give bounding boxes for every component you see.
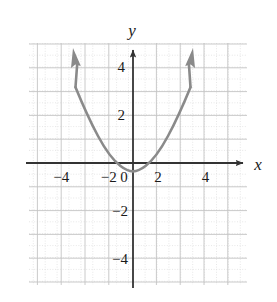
x-tick-label-4: 4 (202, 169, 210, 185)
y-tick-label-2: 2 (118, 107, 126, 123)
y-tick-label-4: 4 (118, 59, 126, 75)
parabola-graph-figure: −4 −2 0 2 4 4 2 −2 −4 x y (0, 0, 277, 302)
x-axis-label: x (253, 155, 262, 174)
y-tick-label--2: −2 (112, 203, 128, 219)
y-tick-label--4: −4 (112, 251, 128, 267)
curve-left-tail (76, 63, 78, 88)
x-tick-label--4: −4 (53, 169, 69, 185)
x-tick-label-0: 0 (120, 169, 128, 185)
curve-right-tail (189, 63, 191, 88)
graph-canvas: −4 −2 0 2 4 4 2 −2 −4 x y (0, 0, 277, 302)
x-tick-label-2: 2 (154, 169, 162, 185)
y-axis-label: y (126, 21, 136, 40)
x-tick-label--2: −2 (101, 169, 117, 185)
grid-lines (29, 43, 247, 285)
